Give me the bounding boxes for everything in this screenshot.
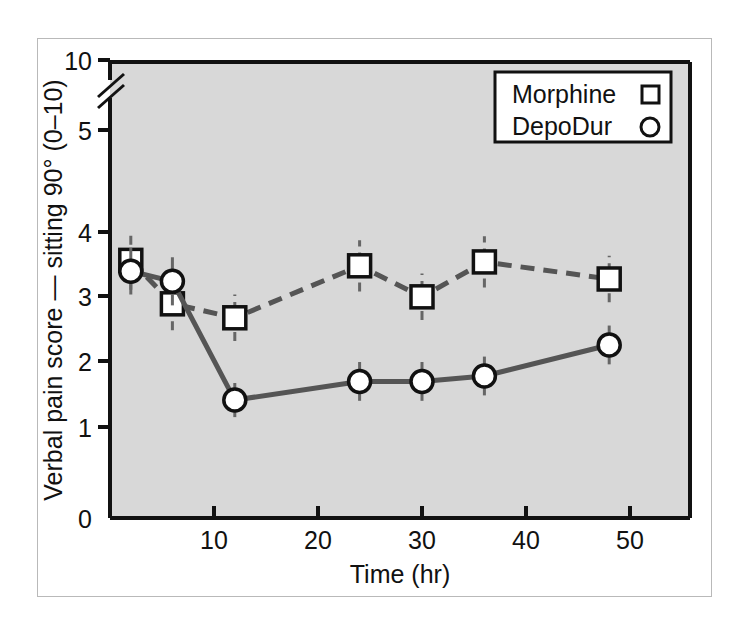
y-tick-label-3: 3 <box>78 283 92 311</box>
y-tick-label-4: 4 <box>78 219 92 247</box>
y-tick-label-0: 0 <box>78 505 92 533</box>
y-tick-label-10: 10 <box>64 47 92 75</box>
x-tick-label-20: 20 <box>304 526 332 554</box>
data-point-marker-circle <box>161 270 183 292</box>
legend-label-depodur: DepoDur <box>512 112 612 140</box>
legend-marker-square-icon <box>642 86 659 103</box>
data-point-marker-circle <box>411 370 433 392</box>
x-tick-label-30: 30 <box>408 526 436 554</box>
figure-root: 10 5 4 3 2 1 0 10 20 30 40 50 Time (hr) … <box>0 0 747 626</box>
data-point-marker-circle <box>473 365 495 387</box>
x-tick-label-50: 50 <box>616 526 644 554</box>
y-axis-title: Verbal pain score — sitting 90° (0–10) <box>39 79 67 500</box>
y-tick-label-5: 5 <box>78 117 92 145</box>
data-point-marker-square <box>598 268 620 290</box>
data-point-marker-circle <box>120 260 142 282</box>
y-axis-tick-labels: 10 5 4 3 2 1 0 <box>64 47 92 533</box>
legend-label-morphine: Morphine <box>512 80 616 108</box>
data-point-marker-square <box>411 286 433 308</box>
y-tick-label-1: 1 <box>78 414 92 442</box>
data-point-marker-circle <box>349 370 371 392</box>
x-tick-label-40: 40 <box>512 526 540 554</box>
x-tick-label-10: 10 <box>200 526 228 554</box>
data-point-marker-square <box>473 251 495 273</box>
x-axis-tick-labels: 10 20 30 40 50 <box>200 526 644 554</box>
chart-legend: Morphine DepoDur <box>495 72 671 142</box>
legend-marker-circle-icon <box>641 118 659 136</box>
y-tick-label-2: 2 <box>78 348 92 376</box>
data-point-marker-circle <box>224 389 246 411</box>
x-axis-title: Time (hr) <box>350 560 450 588</box>
pain-score-line-chart: 10 5 4 3 2 1 0 10 20 30 40 50 Time (hr) … <box>0 0 747 626</box>
data-point-marker-square <box>349 255 371 277</box>
data-point-marker-square <box>224 307 246 329</box>
data-point-marker-circle <box>598 334 620 356</box>
